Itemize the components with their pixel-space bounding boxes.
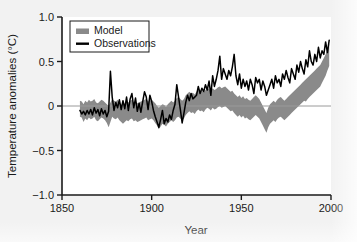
legend-label-observations: Observations [94, 37, 156, 49]
x-tick-label: 1950 [229, 202, 253, 214]
figure-container: 1850190019502000 −1.0−0.500.51.0 Year Te… [0, 0, 357, 242]
y-tick-label: −0.5 [32, 145, 54, 157]
legend-swatch-model-icon [76, 29, 89, 35]
legend-swatch-observations-icon [76, 43, 89, 45]
legend-label-model: Model [94, 24, 123, 36]
x-tick-label: 1850 [50, 202, 74, 214]
y-tick-label: 0.5 [39, 56, 54, 68]
temperature-anomalies-chart: 1850190019502000 −1.0−0.500.51.0 Year Te… [0, 0, 357, 242]
y-axis-title: Temperature anomalies (°C) [6, 34, 18, 178]
legend[interactable]: Model Observations [70, 21, 156, 52]
x-axis-title: Year [184, 224, 207, 236]
y-tick-label: −1.0 [32, 189, 54, 201]
y-tick-label: 1.0 [39, 11, 54, 23]
x-tick-label: 2000 [319, 202, 343, 214]
y-tick-label: 0 [48, 100, 54, 112]
x-tick-label: 1900 [139, 202, 163, 214]
